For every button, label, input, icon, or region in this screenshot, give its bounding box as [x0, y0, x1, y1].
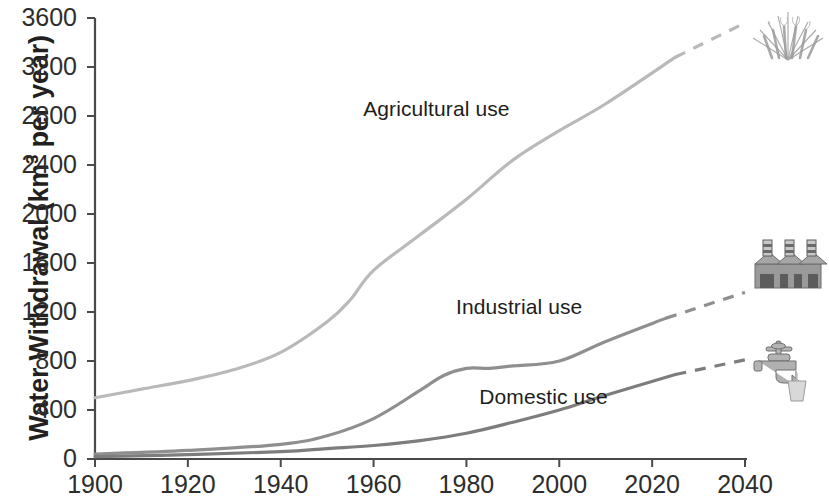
- y-axis-tick-label: 400: [0, 395, 77, 424]
- x-axis-tick-label: 2000: [514, 470, 604, 497]
- series-label-industrial: Industrial use: [456, 295, 582, 319]
- y-axis-tick-label: 2400: [0, 150, 77, 179]
- y-axis-ticks: [87, 18, 95, 459]
- axes-lines: [95, 18, 747, 459]
- x-axis-ticks: [95, 459, 745, 467]
- faucet-icon: [752, 337, 824, 403]
- y-axis-tick-label: 2800: [0, 101, 77, 130]
- x-axis-tick-label: 1920: [143, 470, 233, 497]
- y-axis-tick-label: 1600: [0, 248, 77, 277]
- x-axis-tick-label: 1980: [421, 470, 511, 497]
- series-projection-domestic: [675, 360, 745, 375]
- y-axis-tick-label: 3200: [0, 52, 77, 81]
- series-projection-industrial: [666, 292, 745, 318]
- data-series-group: [95, 23, 745, 457]
- y-axis-tick-label: 800: [0, 346, 77, 375]
- x-axis-tick-label: 2040: [700, 470, 790, 497]
- factory-icon: [749, 238, 827, 290]
- series-label-domestic: Domestic use: [479, 385, 607, 409]
- wheat-icon: [748, 2, 828, 62]
- y-axis-tick-label: 3600: [0, 3, 77, 32]
- y-axis-tick-label: 2000: [0, 199, 77, 228]
- y-axis-tick-label: 1200: [0, 297, 77, 326]
- series-projection-agricultural: [675, 23, 745, 57]
- series-label-agricultural: Agricultural use: [363, 97, 509, 121]
- y-axis-tick-label: 0: [0, 444, 77, 473]
- x-axis-tick-label: 1900: [50, 470, 140, 497]
- x-axis-tick-label: 2020: [607, 470, 697, 497]
- x-axis-tick-label: 1940: [236, 470, 326, 497]
- x-axis-tick-label: 1960: [329, 470, 419, 497]
